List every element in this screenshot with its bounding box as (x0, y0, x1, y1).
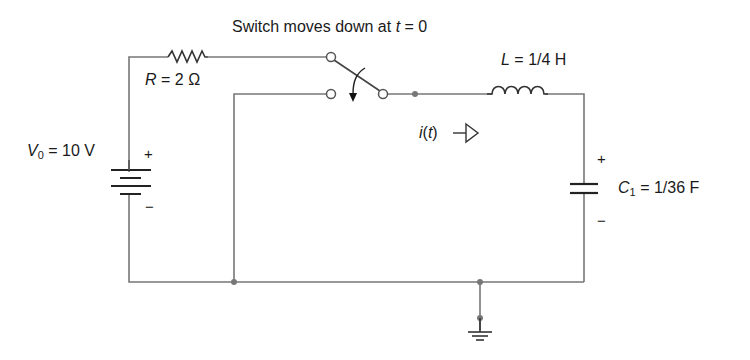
source-minus-sign: − (145, 199, 154, 214)
node-dot (477, 279, 483, 285)
current-label: i(t) (419, 125, 438, 141)
node-dot (231, 279, 237, 285)
source-plus-sign: + (144, 146, 153, 161)
capacitor-plus-sign: + (597, 151, 606, 166)
resistor-icon (168, 51, 208, 62)
capacitor-label: C1 = 1/36 F (618, 180, 699, 198)
inductor-icon (487, 87, 548, 95)
diagram-title: Switch moves down at t = 0 (232, 19, 427, 35)
wire-middle (234, 94, 326, 282)
source-label: V0 = 10 V (27, 143, 95, 161)
capacitor-icon (570, 184, 598, 193)
junction-nodes (231, 91, 483, 321)
battery-icon (111, 160, 151, 194)
wire-inductor-capacitor (545, 94, 584, 184)
inductor-label: L = 1/4 H (501, 52, 566, 68)
switch-direction-arrow-icon (349, 68, 365, 102)
ground-icon (468, 318, 492, 340)
capacitor-minus-sign: − (597, 213, 606, 228)
wire-left-bottom (129, 195, 584, 282)
current-arrow-icon (453, 124, 478, 142)
resistor-label: R = 2 Ω (145, 72, 200, 88)
node-dot (412, 91, 418, 97)
